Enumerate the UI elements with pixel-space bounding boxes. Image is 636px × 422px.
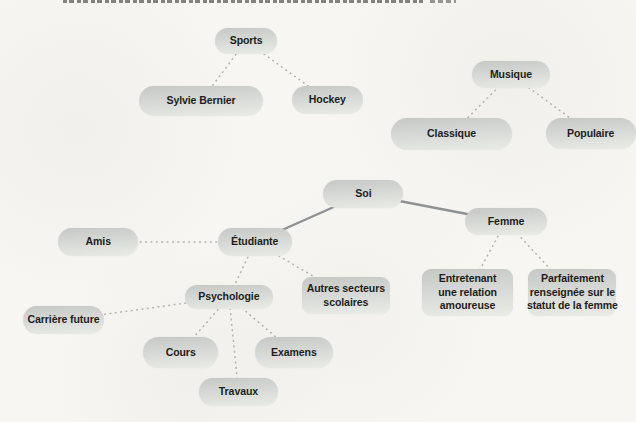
node-label: Hockey [309,93,346,107]
node-soi: Soi [323,180,403,208]
node-hockey: Hockey [292,86,363,114]
node-label: Cours [165,346,195,360]
node-label: Sylvie Bernier [166,94,235,108]
node-label: Populaire [567,127,614,141]
node-label: Soi [355,187,371,201]
node-label: Psychologie [198,290,259,304]
node-autres-secteurs-scolaires: Autres secteursscolaires [302,277,390,314]
node-label: Parfaitementrenseignée sur lestatut de l… [527,272,618,313]
node-classique: Classique [391,118,512,150]
node-relation-amoureuse: Entretenantune relationamoureuse [422,269,513,316]
node-carriere-future: Carrière future [23,306,104,334]
node-etudiante: Étudiante [218,228,292,256]
node-cours: Cours [143,337,218,368]
node-examens: Examens [255,337,333,368]
node-label: Autres secteursscolaires [307,282,385,309]
node-label: Amis [85,235,110,249]
node-psychologie: Psychologie [185,285,273,309]
node-populaire: Populaire [546,118,636,149]
node-label: Classique [427,127,476,141]
node-travaux: Travaux [199,378,278,406]
node-label: Entretenantune relationamoureuse [438,272,497,313]
node-femme: Femme [465,208,547,235]
node-musique: Musique [472,61,550,88]
scanned-page: SportsSylvie BernierHockeyMusiqueClassiq… [0,0,636,422]
node-label: Sports [230,34,263,48]
node-label: Étudiante [231,235,278,249]
node-amis: Amis [58,228,138,256]
node-sylvie-bernier: Sylvie Bernier [139,86,263,116]
node-label: Musique [490,68,532,82]
node-label: Examens [271,346,317,360]
node-label: Carrière future [28,313,100,327]
node-sports: Sports [215,28,277,54]
node-statut-femme: Parfaitementrenseignée sur lestatut de l… [528,269,616,316]
node-label: Travaux [219,385,258,399]
node-label: Femme [488,215,525,229]
